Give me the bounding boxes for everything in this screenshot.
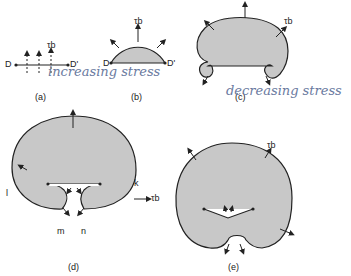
panel-b-label-stress: τb (134, 16, 143, 26)
panel-c-drawing (197, 4, 288, 83)
panel-e-drawing (176, 143, 292, 252)
panel-e-caption: (e) (228, 262, 239, 272)
panel-e-label-stress: τb (267, 140, 276, 150)
annotation-decreasing-stress: decreasing stress (226, 83, 342, 98)
dislocation-loop-figure: D D' τb (a) D D' τb (b) τb (c) increasin… (0, 0, 351, 276)
panel-a-label-d: D (5, 59, 12, 69)
panel-c-label-stress: τb (284, 16, 293, 26)
panel-b-label-d-prime: D' (167, 58, 175, 68)
panel-d-drawing (12, 112, 149, 214)
panel-d-label-k: k (134, 178, 139, 188)
panel-d-label-l: l (6, 188, 8, 198)
panel-d-label-m: m (57, 226, 65, 236)
panel-d-caption: (d) (68, 262, 79, 272)
panel-a-caption: (a) (35, 92, 46, 102)
annotation-increasing-stress: increasing stress (48, 64, 160, 79)
panel-b-drawing (109, 26, 166, 65)
panel-a-label-stress: τb (47, 40, 56, 50)
panel-d-label-stress: τb (151, 193, 160, 203)
panel-d-label-n: n (81, 226, 86, 236)
panel-b-caption: (b) (131, 92, 142, 102)
